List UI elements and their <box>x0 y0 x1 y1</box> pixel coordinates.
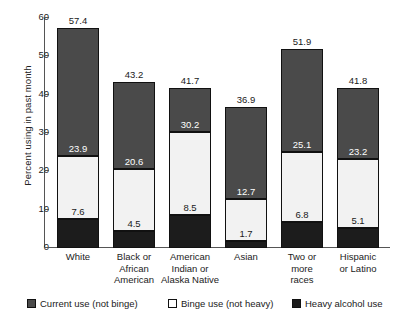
legend-swatch-icon <box>168 299 177 308</box>
bar-segment-heavy-alcohol-use <box>113 231 155 248</box>
y-tick: 50 <box>0 55 49 56</box>
plot-area: 7.623.957.44.520.643.28.530.241.71.712.7… <box>45 17 390 248</box>
legend-swatch-icon <box>292 299 301 308</box>
stacked-bar-chart: Percent using in past month 010203040506… <box>0 0 397 316</box>
legend-item: Current use (not binge) <box>27 298 138 309</box>
y-tick: 10 <box>0 209 49 210</box>
bar-segment-heavy-alcohol-use <box>225 241 267 248</box>
bar-total-label: 57.4 <box>57 15 99 26</box>
bar-total-label: 41.7 <box>169 75 211 86</box>
y-tick: 0 <box>0 247 49 248</box>
bar-group: 5.123.241.8 <box>337 18 379 248</box>
legend-label: Current use (not binge) <box>40 298 138 309</box>
legend-label: Heavy alcohol use <box>305 298 383 309</box>
bar-group: 8.530.241.7 <box>169 18 211 248</box>
bar-segment-heavy-alcohol-use <box>337 228 379 248</box>
bar-segment-heavy-alcohol-use <box>169 215 211 248</box>
chart-legend: Current use (not binge)Binge use (not he… <box>0 298 397 314</box>
bar-segment-heavy-alcohol-use <box>57 219 99 248</box>
bar-total-label: 41.8 <box>337 75 379 86</box>
bar-value-label-binge-cumulative: 12.7 <box>225 186 267 197</box>
bar-segment-current-use <box>57 28 99 156</box>
bar-group: 4.520.643.2 <box>113 18 155 248</box>
x-axis-category-line: Indian or <box>153 263 227 275</box>
bar-segment-current-use <box>281 49 323 152</box>
legend-swatch-icon <box>27 299 36 308</box>
bar-total-label: 43.2 <box>113 69 155 80</box>
bar-value-label-binge-cumulative: 30.2 <box>169 119 211 130</box>
bar-total-label: 36.9 <box>225 94 267 105</box>
bar-group: 7.623.957.4 <box>57 18 99 248</box>
x-axis-category-line: Hispanic <box>321 251 395 263</box>
bar-value-label-heavy: 6.8 <box>281 209 323 220</box>
y-tick: 60 <box>0 17 49 18</box>
bar-value-label-binge-cumulative: 20.6 <box>113 156 155 167</box>
legend-item: Binge use (not heavy) <box>168 298 273 309</box>
bar-value-label-binge-cumulative: 23.9 <box>57 143 99 154</box>
bar-value-label-heavy: 5.1 <box>337 215 379 226</box>
x-axis-category-line: races <box>265 274 339 286</box>
x-axis-category-label: Hispanicor Latino <box>321 251 395 274</box>
legend-label: Binge use (not heavy) <box>181 298 273 309</box>
bar-value-label-heavy: 1.7 <box>225 228 267 239</box>
y-tick: 20 <box>0 170 49 171</box>
bar-value-label-heavy: 7.6 <box>57 206 99 217</box>
bar-value-label-heavy: 8.5 <box>169 202 211 213</box>
bar-value-label-binge-cumulative: 23.2 <box>337 146 379 157</box>
bar-total-label: 51.9 <box>281 36 323 47</box>
bar-value-label-heavy: 4.5 <box>113 218 155 229</box>
x-axis-category-line: Alaska Native <box>153 274 227 286</box>
bar-segment-heavy-alcohol-use <box>281 222 323 248</box>
x-axis-category-line: or Latino <box>321 263 395 275</box>
legend-item: Heavy alcohol use <box>292 298 383 309</box>
bar-value-label-binge-cumulative: 25.1 <box>281 139 323 150</box>
bar-group: 1.712.736.9 <box>225 18 267 248</box>
y-tick: 30 <box>0 132 49 133</box>
bar-group: 6.825.151.9 <box>281 18 323 248</box>
y-tick: 40 <box>0 94 49 95</box>
